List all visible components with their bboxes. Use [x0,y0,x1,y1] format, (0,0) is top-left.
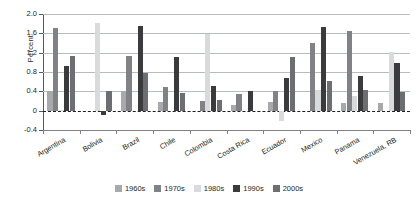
x-axis-tick-mark [190,130,191,134]
bar [64,66,69,110]
y-axis-tick-label: 2.0 [27,10,37,18]
legend-item[interactable]: 1970s [154,185,184,193]
bar [363,90,368,110]
legend-swatch-icon [194,185,201,192]
x-axis-tick-mark [80,130,81,134]
bar [310,43,315,111]
bar [284,78,289,111]
bar [400,92,405,110]
bar [138,26,143,111]
chart-legend: 1960s1970s1980s1990s2000s [0,185,418,193]
legend-label: 2000s [283,185,303,193]
gridline [43,14,410,15]
bar [211,86,216,111]
bar [53,28,58,111]
bar [163,87,168,111]
bar [290,57,295,111]
bar [95,23,100,111]
y-axis-tick-label: 0.4 [27,87,37,95]
legend-swatch-icon [273,185,280,192]
bar [200,101,205,111]
bar [315,90,320,110]
x-axis-tick-mark [227,130,228,134]
bar [341,103,346,110]
bar [174,57,179,111]
bar [236,94,241,111]
bar [126,56,131,111]
y-axis-tick-label: 1.6 [27,29,37,37]
x-axis-tick-mark [410,130,411,134]
bar [106,91,111,110]
bar [378,103,383,110]
x-axis-tick-mark [263,130,264,134]
legend-label: 1990s [243,185,263,193]
legend-item[interactable]: 2000s [273,185,303,193]
legend-swatch-icon [154,185,161,192]
y-axis-tick-label: 1.2 [27,49,37,57]
bar [101,111,106,115]
legend-swatch-icon [115,185,122,192]
legend-label: 1970s [164,185,184,193]
bar [180,93,185,110]
bar [352,96,357,111]
bar [394,63,399,110]
bar-chart: Percent 2.01.61.20.80.40-0.4 ArgentinaBo… [0,0,418,209]
bar [358,76,363,111]
x-axis-tick-mark [337,130,338,134]
bar [231,105,236,111]
legend-label: 1980s [204,185,224,193]
bar [389,52,394,111]
x-axis-tick-mark [300,130,301,134]
y-axis-tick-label: 0 [33,107,37,115]
bar [158,102,163,110]
bar [347,31,352,111]
legend-item[interactable]: 1990s [233,185,263,193]
x-axis-tick-mark [373,130,374,134]
bar [47,91,52,110]
zero-baseline [43,111,410,112]
bar [279,111,284,122]
legend-item[interactable]: 1960s [115,185,145,193]
legend-swatch-icon [233,185,240,192]
plot-area [43,14,410,130]
x-axis-tick-mark [43,130,44,134]
y-axis-tick-label: 0.8 [27,68,37,76]
bar [321,27,326,111]
legend-item[interactable]: 1980s [194,185,224,193]
bar [121,91,126,110]
bar [248,91,253,110]
bar [205,34,210,110]
bar [217,100,222,111]
bar [273,91,278,110]
y-axis-tick-label: -0.4 [24,126,37,134]
bar [59,110,64,111]
bar [327,81,332,111]
x-axis-tick-mark [116,130,117,134]
bar [143,73,148,111]
bar [268,102,273,111]
bar [70,56,75,111]
legend-label: 1960s [125,185,145,193]
x-axis-tick-mark [153,130,154,134]
